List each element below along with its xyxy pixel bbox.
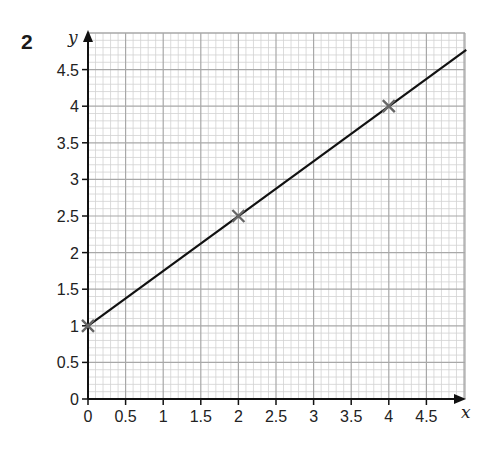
y-tick-label: 0.5 <box>57 354 79 371</box>
x-tick-label: 0 <box>84 408 93 425</box>
x-tick-label: 2 <box>234 408 243 425</box>
y-tick-label: 2 <box>70 245 79 262</box>
x-tick-label: 1.5 <box>190 408 212 425</box>
x-tick-label: 1 <box>159 408 168 425</box>
y-tick-label: 4 <box>70 98 79 115</box>
x-tick-label: 4 <box>384 408 393 425</box>
x-tick-label: 2.5 <box>265 408 287 425</box>
y-tick-label: 3.5 <box>57 135 79 152</box>
y-tick-label: 1 <box>70 318 79 335</box>
x-tick-label: 0.5 <box>114 408 136 425</box>
y-tick-label: 3 <box>70 171 79 188</box>
y-tick-label: 1.5 <box>57 281 79 298</box>
y-tick-label: 2.5 <box>57 208 79 225</box>
y-axis-label: y <box>67 27 78 47</box>
x-tick-label: 3 <box>309 408 318 425</box>
line-graph: 00.511.522.533.544.500.511.522.533.544.5… <box>0 0 495 451</box>
y-tick-label: 0 <box>70 391 79 408</box>
x-tick-label: 4.5 <box>415 408 437 425</box>
y-tick-label: 4.5 <box>57 62 79 79</box>
x-axis-label: x <box>461 402 471 422</box>
y-axis-arrow-icon <box>83 30 93 42</box>
x-tick-label: 3.5 <box>340 408 362 425</box>
